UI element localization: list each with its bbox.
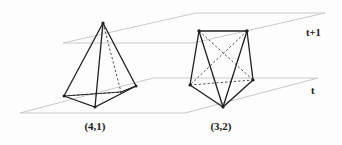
plane-label-t-plus-1: t+1	[306, 27, 321, 38]
pyramid-lateral-edge-right	[103, 23, 136, 86]
shape-triangular-polyhedron	[188, 29, 254, 108]
pyramid-base-front-edges	[64, 86, 136, 107]
polyhedron-hidden-bottom-edge	[190, 80, 253, 85]
pyramid-vertex-base-rear	[120, 91, 123, 94]
polyhedron-bottom-edge-left	[190, 85, 223, 107]
pyramid-vertex-base-front	[94, 106, 97, 109]
pyramid-hidden-edge-apex-to-rear	[103, 23, 121, 92]
polyhedron-vertex-top-right	[245, 29, 248, 32]
polyhedron-vertex-bottom-left	[188, 83, 191, 86]
pyramid-base-edge-rear-right2	[121, 86, 136, 92]
pyramid-vertex-base-right	[135, 85, 138, 88]
pyramid-base-edge-left-rear	[64, 92, 121, 96]
pyramid-vertex-base-left	[63, 95, 66, 98]
time-layer-polyhedra-diagram	[0, 0, 342, 145]
caption-triangular-polyhedron: (3,2)	[184, 120, 258, 132]
caption-square-pyramid: (4,1)	[58, 120, 132, 132]
polyhedron-edge-tr-br	[247, 31, 253, 80]
plane-label-t: t	[311, 85, 315, 96]
polyhedron-edge-tl-bl	[190, 31, 199, 85]
polyhedron-vertex-top-left	[197, 29, 200, 32]
polyhedron-vertex-bottom-front	[221, 105, 224, 108]
polyhedron-vertex-bottom-right	[251, 78, 254, 81]
polyhedron-edge-tl-bf	[199, 31, 223, 107]
pyramid-vertex-apex	[101, 21, 104, 24]
